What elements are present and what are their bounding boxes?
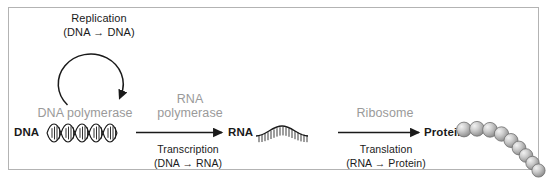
translation-process-label: Translation [360, 143, 413, 155]
rna-label: RNA [228, 126, 253, 140]
replication-subtitle: (DNA → DNA) [63, 26, 134, 39]
dna-label: DNA [14, 126, 39, 140]
ribosome-label: Ribosome [356, 106, 413, 121]
transcription-process-label: Transcription [157, 143, 219, 155]
central-dogma-figure: Replication (DNA → DNA) DNA polymerase R… [0, 0, 549, 185]
protein-label: Protein [424, 126, 464, 140]
transcription-conversion-label: (DNA → RNA) [154, 157, 222, 169]
replication-title: Replication [71, 12, 127, 25]
dna-polymerase-label: DNA polymerase [37, 106, 132, 121]
translation-conversion-label: (RNA → Protein) [346, 157, 426, 169]
rna-polymerase-label-line2: polymerase [157, 106, 223, 121]
rna-polymerase-label-line1: RNA [177, 92, 204, 107]
